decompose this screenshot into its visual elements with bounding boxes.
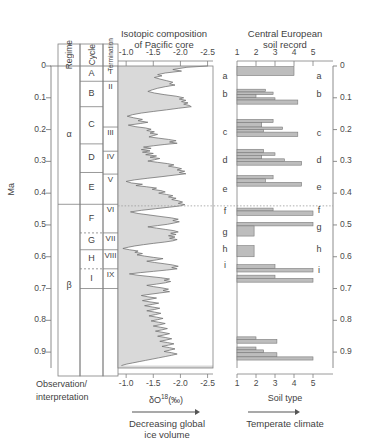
age-tick-right-0: 0 bbox=[340, 60, 374, 70]
regime-header: Regime bbox=[64, 40, 74, 69]
cycle-cell-B: B bbox=[80, 88, 103, 98]
isotope-stage-label-e: e bbox=[217, 184, 233, 194]
age-tick-left-0.1: 0.1 bbox=[16, 92, 46, 102]
regime-cell-α: α bbox=[58, 129, 80, 139]
age-tick-right-0.9: 0.9 bbox=[340, 346, 374, 356]
termination-cell-VIII: VIII bbox=[103, 251, 118, 260]
age-tick-right-0.5: 0.5 bbox=[340, 219, 374, 229]
age-tick-left-0.9: 0.9 bbox=[16, 346, 46, 356]
age-tick-left-0.3: 0.3 bbox=[16, 155, 46, 165]
soil-stage-label-h: h bbox=[311, 244, 327, 254]
figure-root: Ma Isotopic composition of Pacific core … bbox=[0, 0, 376, 447]
termination-cell-III: III bbox=[103, 128, 118, 137]
soil-stage-label-a: a bbox=[311, 71, 327, 81]
isotope-stage-label-a: a bbox=[217, 71, 233, 81]
age-tick-right-0.8: 0.8 bbox=[340, 314, 374, 324]
soil-tick-3: 3 bbox=[265, 47, 285, 57]
text-overlay: αβABCDEFGHIIIIIIIIVVVIVIIVIIIIXRegimeCyc… bbox=[0, 0, 376, 447]
age-tick-left-0: 0 bbox=[16, 60, 46, 70]
regime-header-wrap: Regime bbox=[58, 45, 80, 65]
age-tick-right-0.3: 0.3 bbox=[340, 155, 374, 165]
age-tick-right-0.4: 0.4 bbox=[340, 187, 374, 197]
soil-tick-4: 4 bbox=[284, 47, 304, 57]
cycle-header: Cycle bbox=[87, 44, 97, 65]
soil-tick-1: 1 bbox=[227, 47, 247, 57]
soil-stage-label-b: b bbox=[311, 89, 327, 99]
isotope-stage-label-d: d bbox=[217, 155, 233, 165]
isotope-stage-label-f: f bbox=[217, 206, 233, 216]
termination-cell-II: II bbox=[103, 82, 118, 91]
isotope-bottom-tick--2.5: -2.5 bbox=[192, 378, 224, 388]
cycle-header-wrap: Cycle bbox=[80, 45, 103, 65]
soil-stage-label-f: f bbox=[311, 205, 327, 215]
soil-stage-label-c: c bbox=[311, 128, 327, 138]
soil-bottom-tick-3: 3 bbox=[265, 378, 285, 388]
age-tick-right-0.7: 0.7 bbox=[340, 283, 374, 293]
soil-stage-label-g: g bbox=[311, 222, 327, 232]
isotope-stage-label-c: c bbox=[217, 127, 233, 137]
termination-cell-IV: IV bbox=[103, 152, 118, 161]
soil-stage-label-e: e bbox=[311, 182, 327, 192]
soil-bottom-tick-2: 2 bbox=[246, 378, 266, 388]
isotope-stage-label-i: i bbox=[217, 260, 233, 270]
age-tick-left-0.4: 0.4 bbox=[16, 187, 46, 197]
termination-cell-IX: IX bbox=[103, 270, 118, 279]
soil-bottom-tick-5: 5 bbox=[303, 378, 323, 388]
termination-cell-VII: VII bbox=[103, 234, 118, 243]
isotope-stage-label-h: h bbox=[217, 244, 233, 254]
isotope-stage-label-b: b bbox=[217, 89, 233, 99]
cycle-cell-G: G bbox=[80, 235, 103, 245]
soil-tick-5: 5 bbox=[303, 47, 323, 57]
soil-bottom-tick-4: 4 bbox=[284, 378, 304, 388]
soil-bottom-tick-1: 1 bbox=[227, 378, 247, 388]
cycle-cell-D: D bbox=[80, 152, 103, 162]
cycle-cell-A: A bbox=[80, 68, 103, 78]
soil-stage-label-d: d bbox=[311, 155, 327, 165]
isotope-tick--2.5: -2.5 bbox=[192, 47, 224, 57]
age-tick-right-0.2: 0.2 bbox=[340, 124, 374, 134]
cycle-cell-F: F bbox=[80, 213, 103, 223]
age-tick-left-0.6: 0.6 bbox=[16, 251, 46, 261]
age-tick-left-0.8: 0.8 bbox=[16, 314, 46, 324]
cycle-cell-I: I bbox=[80, 273, 103, 283]
age-tick-left-0.2: 0.2 bbox=[16, 124, 46, 134]
age-tick-right-0.1: 0.1 bbox=[340, 92, 374, 102]
isotope-stage-label-g: g bbox=[217, 227, 233, 237]
regime-cell-β: β bbox=[58, 280, 80, 290]
soil-tick-2: 2 bbox=[246, 47, 266, 57]
cycle-cell-H: H bbox=[80, 253, 103, 263]
cycle-cell-E: E bbox=[80, 182, 103, 192]
soil-stage-label-i: i bbox=[311, 265, 327, 275]
age-tick-right-0.6: 0.6 bbox=[340, 251, 374, 261]
age-tick-left-0.5: 0.5 bbox=[16, 219, 46, 229]
termination-cell-V: V bbox=[103, 175, 118, 184]
age-tick-left-0.7: 0.7 bbox=[16, 283, 46, 293]
cycle-cell-C: C bbox=[80, 119, 103, 129]
termination-cell-VI: VI bbox=[103, 205, 118, 214]
